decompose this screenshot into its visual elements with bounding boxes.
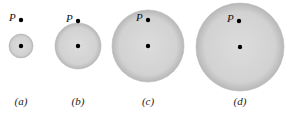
panel-caption-c: (c) bbox=[142, 95, 154, 107]
sphere-panel-a bbox=[9, 18, 33, 58]
panel-caption-a: (a) bbox=[15, 95, 28, 107]
point-p bbox=[76, 19, 80, 23]
point-p bbox=[146, 18, 150, 22]
point-p-label: P bbox=[136, 11, 143, 23]
sphere-panel-c bbox=[112, 10, 184, 82]
point-p bbox=[19, 18, 23, 22]
panel-caption-b: (b) bbox=[72, 95, 85, 107]
center-point bbox=[76, 44, 80, 48]
point-p-label: P bbox=[227, 12, 234, 24]
sphere-panel-d bbox=[196, 3, 284, 91]
center-point bbox=[19, 44, 23, 48]
sphere-panel-b bbox=[55, 19, 101, 69]
panel-caption-d: (d) bbox=[234, 95, 247, 107]
point-p-label: P bbox=[9, 11, 16, 23]
center-point bbox=[238, 45, 242, 49]
point-p bbox=[237, 19, 241, 23]
center-point bbox=[146, 44, 150, 48]
point-p-label: P bbox=[66, 12, 73, 24]
